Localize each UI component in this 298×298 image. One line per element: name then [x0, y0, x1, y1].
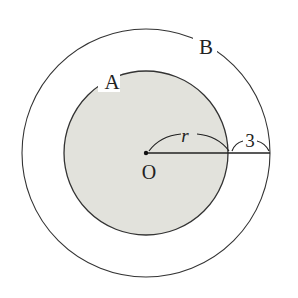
label-b: B	[199, 35, 213, 59]
center-point-o	[144, 151, 148, 155]
concentric-circles-diagram: r 3 O A B	[0, 0, 298, 298]
label-o: O	[142, 161, 156, 183]
diagram-canvas: r 3 O A B	[0, 0, 298, 298]
label-a: A	[104, 70, 120, 94]
label-r: r	[181, 125, 189, 146]
label-3: 3	[245, 130, 255, 151]
